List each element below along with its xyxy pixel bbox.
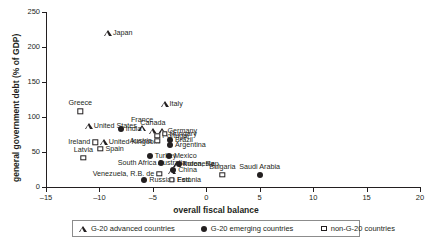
x-tick-label: 10	[309, 194, 317, 202]
circle-marker-icon	[170, 167, 176, 173]
data-point-label: Austria	[130, 137, 152, 144]
data-point-label: Venezuela, R.B. de	[93, 170, 155, 177]
y-tick-label: 200	[27, 43, 40, 51]
legend-label: G-20 advanced countries	[91, 224, 175, 233]
x-tick-label: –10	[93, 194, 106, 202]
square-marker-icon	[92, 139, 97, 144]
data-point-label: Canada	[140, 119, 165, 126]
data-point[interactable]	[154, 138, 159, 143]
data-point[interactable]	[104, 30, 112, 36]
y-axis-title: general government debt (% of GDP)	[11, 34, 21, 182]
data-point[interactable]	[157, 171, 162, 176]
scatter-chart-figure: 050100150200250 –15–10–505101520 general…	[0, 0, 432, 247]
x-axis-title: overall fiscal balance	[0, 205, 432, 215]
data-point-label: Spain	[105, 145, 123, 152]
x-tick	[46, 188, 47, 192]
data-point[interactable]	[98, 146, 103, 151]
x-tick-label: –5	[149, 194, 157, 202]
legend-symbol	[321, 226, 326, 231]
y-tick-label: 0	[36, 183, 40, 191]
data-point[interactable]	[169, 177, 174, 182]
square-marker-icon	[321, 226, 326, 231]
x-tick	[153, 188, 154, 192]
square-marker-icon	[98, 146, 103, 151]
data-point[interactable]	[77, 109, 82, 114]
data-point[interactable]	[170, 167, 176, 173]
chart-legend: G-20 advanced countriesG-20 emerging cou…	[72, 220, 360, 237]
data-point-label: Italy	[170, 100, 183, 107]
circle-marker-icon	[118, 126, 124, 132]
legend-item[interactable]: G-20 advanced countries	[79, 224, 175, 233]
x-tick-label: –15	[40, 194, 53, 202]
square-marker-icon	[169, 177, 174, 182]
data-point[interactable]	[81, 155, 86, 160]
data-point[interactable]	[161, 101, 169, 107]
square-marker-icon	[154, 138, 159, 143]
x-tick-label: 20	[416, 194, 424, 202]
legend-label: G-20 emerging countries	[211, 224, 294, 233]
data-point-label: Argentina	[175, 141, 206, 148]
x-tick	[313, 188, 314, 192]
data-point-label: Japan	[113, 29, 133, 36]
legend-item[interactable]: G-20 emerging countries	[201, 224, 294, 233]
data-point[interactable]	[85, 123, 93, 129]
legend-symbol	[201, 226, 207, 232]
square-marker-icon	[157, 171, 162, 176]
x-tick	[260, 188, 261, 192]
square-marker-icon	[220, 172, 225, 177]
circle-marker-icon	[167, 142, 173, 148]
y-tick-label: 50	[32, 148, 40, 156]
triangle-marker-icon	[79, 226, 87, 232]
x-tick	[206, 188, 207, 192]
x-tick-label: 15	[362, 194, 370, 202]
legend-item[interactable]: non-G-20 countries	[321, 224, 395, 233]
square-marker-icon	[162, 131, 167, 136]
data-point[interactable]	[166, 153, 172, 159]
y-tick-label: 250	[27, 8, 40, 16]
y-tick-label: 100	[27, 113, 40, 121]
data-point[interactable]	[162, 131, 167, 136]
data-point[interactable]	[158, 160, 164, 166]
x-axis-line	[46, 187, 421, 188]
data-point-label: Greece	[68, 100, 92, 107]
data-point-label: Saudi Arabia	[239, 163, 280, 170]
x-tick	[367, 188, 368, 192]
x-tick	[99, 188, 100, 192]
data-point[interactable]	[92, 139, 97, 144]
data-point-label: India	[126, 125, 142, 132]
y-tick-label: 150	[27, 78, 40, 86]
data-point-label: Bulgaria	[209, 163, 235, 170]
legend-label: non-G-20 countries	[331, 224, 395, 233]
square-marker-icon	[77, 109, 82, 114]
circle-marker-icon	[257, 172, 263, 178]
circle-marker-icon	[158, 160, 164, 166]
triangle-marker-icon	[85, 123, 93, 129]
x-tick-label: 5	[258, 194, 262, 202]
triangle-marker-icon	[104, 30, 112, 36]
data-point-label: South Africa	[118, 159, 157, 166]
data-point-label: Latvia	[74, 146, 93, 153]
data-point-label: Estonia	[177, 176, 201, 183]
triangle-marker-icon	[161, 101, 169, 107]
square-marker-icon	[81, 155, 86, 160]
x-tick-label: 0	[204, 194, 208, 202]
circle-marker-icon	[166, 153, 172, 159]
data-point[interactable]	[167, 142, 173, 148]
x-tick	[420, 188, 421, 192]
plot-area	[46, 12, 420, 187]
data-point-label: China	[178, 166, 197, 173]
legend-symbol	[79, 226, 87, 232]
data-point[interactable]	[220, 172, 225, 177]
circle-marker-icon	[201, 226, 207, 232]
data-point[interactable]	[118, 126, 124, 132]
data-point[interactable]	[257, 172, 263, 178]
data-point-label: Hungary	[170, 130, 197, 137]
